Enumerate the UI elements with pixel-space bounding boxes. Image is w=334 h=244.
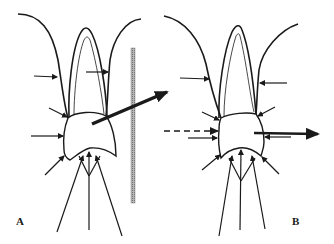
arrow-icon <box>96 156 122 236</box>
arrow-icon <box>34 76 57 77</box>
arrow-icon <box>219 156 232 236</box>
arrow-icon <box>49 108 67 117</box>
occlusal-force-lines <box>57 152 122 236</box>
socket-outline <box>164 16 221 118</box>
vertical-bar <box>131 48 135 203</box>
crown <box>64 112 116 160</box>
arrow-icon <box>240 150 241 230</box>
arrow-icon <box>180 78 209 79</box>
arrow-icon <box>258 107 275 116</box>
arrow-icon <box>57 156 83 232</box>
arrow-icon <box>202 155 220 170</box>
socket-outline-right <box>106 19 141 116</box>
root-inner <box>74 37 104 116</box>
occlusal-force-lines <box>219 150 265 236</box>
resultant-arrow <box>254 133 318 134</box>
panel-label-a: A <box>16 215 24 227</box>
socket-outline-right <box>256 24 298 114</box>
panel-a <box>18 14 167 236</box>
root-inner <box>224 34 254 116</box>
panel-label-b: B <box>292 215 299 227</box>
arrow-icon <box>252 156 265 229</box>
arrow-icon <box>202 112 219 120</box>
socket-outline <box>18 14 68 118</box>
tooth-force-diagram: A B <box>0 0 334 244</box>
panel-b <box>164 16 318 236</box>
arrow-icon <box>262 157 279 174</box>
arrow-icon <box>45 156 64 175</box>
